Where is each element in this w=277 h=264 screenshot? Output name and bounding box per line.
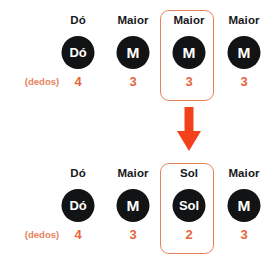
chord-label-before-1: Maior xyxy=(105,14,161,27)
chord-badge-after-3: M xyxy=(228,189,261,222)
chord-badge-after-2: Sol xyxy=(173,189,206,222)
chord-badge-text-after-1: M xyxy=(127,199,140,212)
finger-number-before-1: 3 xyxy=(105,74,161,89)
chord-label-before-3: Maior xyxy=(216,14,272,27)
chord-label-after-3: Maior xyxy=(216,167,272,180)
chord-label-after-1: Maior xyxy=(105,167,161,180)
chord-badge-text-before-1: M xyxy=(127,46,140,59)
chord-badge-text-after-3: M xyxy=(238,199,251,212)
finger-number-after-2: 2 xyxy=(161,227,217,242)
chord-badge-text-after-0: Dó xyxy=(69,199,86,212)
chord-badge-text-after-2: Sol xyxy=(179,199,199,212)
chord-badge-before-2: M xyxy=(173,36,206,69)
finger-number-after-0: 4 xyxy=(50,227,106,242)
chord-badge-before-1: M xyxy=(117,36,150,69)
down-arrow-icon xyxy=(175,107,203,151)
finger-number-before-0: 4 xyxy=(50,74,106,89)
chord-label-after-2: Sol xyxy=(161,167,217,180)
finger-number-after-1: 3 xyxy=(105,227,161,242)
chord-label-after-0: Dó xyxy=(50,167,106,180)
chord-badge-text-before-0: Dó xyxy=(69,46,86,59)
chord-badge-text-before-2: M xyxy=(183,46,196,59)
chord-badge-after-1: M xyxy=(117,189,150,222)
chord-badge-after-0: Dó xyxy=(62,189,95,222)
finger-number-after-3: 3 xyxy=(216,227,272,242)
chord-badge-before-3: M xyxy=(228,36,261,69)
finger-number-before-3: 3 xyxy=(216,74,272,89)
chord-badge-text-before-3: M xyxy=(238,46,251,59)
chord-badge-before-0: Dó xyxy=(62,36,95,69)
finger-number-before-2: 3 xyxy=(161,74,217,89)
chord-label-before-0: Dó xyxy=(50,14,106,27)
diagram-canvas: (dedos) Dó Dó 4 Maior M 3 Maior M 3 Maio… xyxy=(0,0,277,264)
chord-label-before-2: Maior xyxy=(161,14,217,27)
